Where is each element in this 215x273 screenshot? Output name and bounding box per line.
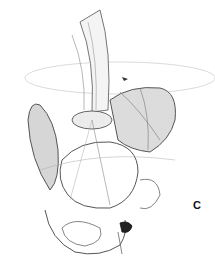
right-acetabulum (140, 179, 160, 208)
construction-ellipse (25, 62, 215, 94)
pen-mark (122, 77, 128, 81)
coccyx-mark (120, 222, 132, 232)
spine-column-inner (72, 35, 84, 110)
left-iliac-wing (28, 104, 58, 190)
obturator-foramen (62, 222, 101, 247)
panel-label: C (193, 199, 201, 211)
figure-canvas: C (0, 0, 215, 273)
pelvis-drawing (0, 0, 215, 273)
